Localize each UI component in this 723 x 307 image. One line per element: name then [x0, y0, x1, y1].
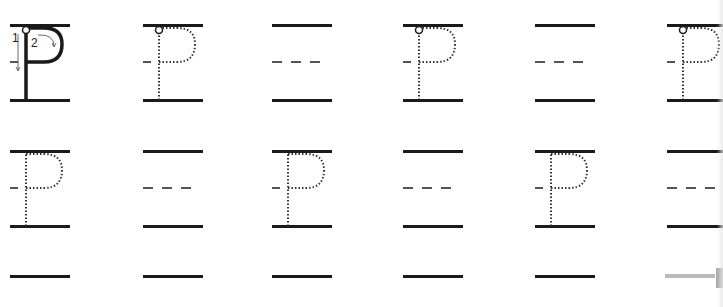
start-point-icon — [416, 27, 423, 34]
practice-cell-r2-c3 — [272, 150, 334, 230]
practice-cell-r1-c5 — [535, 24, 597, 104]
practice-cell-r3-c2 — [143, 275, 205, 307]
stroke-arrow-curve-icon — [38, 35, 56, 47]
start-point-icon — [156, 27, 163, 34]
writing-line — [10, 275, 70, 278]
practice-cell-r3-c1 — [10, 275, 72, 307]
letter-p-trace-icon — [535, 150, 597, 230]
practice-cell-r1-c2 — [143, 24, 205, 104]
letter-p-trace-icon — [403, 24, 465, 104]
baseline — [667, 225, 723, 228]
letter-p-trace-icon — [272, 150, 334, 230]
baseline — [143, 225, 203, 228]
practice-cell-r2-c4 — [403, 150, 465, 230]
letter-p-trace-icon — [667, 24, 723, 104]
start-point-icon — [23, 27, 30, 34]
practice-cell-r1-c6 — [667, 24, 723, 104]
top-line — [535, 24, 595, 27]
practice-cell-r1-c4 — [403, 24, 465, 104]
top-line — [403, 150, 463, 153]
page-edge-bar — [665, 274, 715, 278]
letter-p-model-icon — [10, 24, 72, 104]
practice-cell-r3-c4 — [403, 275, 465, 307]
page-shadow — [717, 0, 723, 307]
baseline — [403, 225, 463, 228]
writing-line — [535, 275, 595, 278]
practice-cell-r1-c3 — [272, 24, 334, 104]
writing-line — [272, 275, 332, 278]
practice-cell-r2-c1 — [10, 150, 72, 230]
practice-cell-r3-c5 — [535, 275, 597, 307]
writing-line — [143, 275, 203, 278]
stroke-number-2: 2 — [31, 36, 38, 50]
practice-cell-r2-c6 — [667, 150, 723, 230]
letter-p-trace-icon — [10, 150, 72, 230]
start-point-icon — [680, 27, 687, 34]
baseline — [535, 99, 595, 102]
writing-line — [403, 275, 463, 278]
letter-p-trace-icon — [143, 24, 205, 104]
practice-cell-r3-c3 — [272, 275, 334, 307]
practice-cell-r2-c5 — [535, 150, 597, 230]
baseline — [272, 99, 332, 102]
top-line — [272, 24, 332, 27]
top-line — [143, 150, 203, 153]
practice-cell-r1-c1 — [10, 24, 72, 104]
practice-cell-r3-c6 — [667, 275, 723, 307]
stroke-number-1: 1 — [12, 31, 19, 45]
practice-cell-r2-c2 — [143, 150, 205, 230]
top-line — [667, 150, 723, 153]
